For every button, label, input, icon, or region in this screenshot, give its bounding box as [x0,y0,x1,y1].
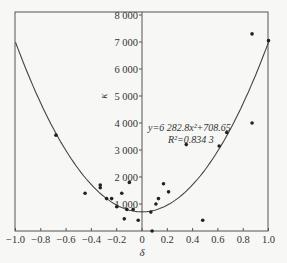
y-tick-label: 2 000 [114,172,138,183]
data-point [217,144,221,148]
x-tick-label: 0.8 [237,234,250,245]
data-point [128,181,132,185]
data-point [167,190,171,194]
data-point [115,205,119,209]
y-tick-label: 4 000 [114,118,138,129]
scatter-chart: −1.0−0.8−0.6−0.4−0.200.20.40.60.81.01 00… [0,0,287,263]
data-point [120,191,124,195]
fit-equation: y=6 282.8x²+708.65 [147,122,231,133]
data-point [250,32,254,36]
data-point [136,218,140,222]
data-point [105,197,109,201]
data-point [131,208,135,212]
y-tick-label: 5 000 [114,91,138,102]
x-tick-label: −0.6 [57,234,76,245]
x-axis-label: δ [139,246,145,258]
x-tick-label: −0.2 [107,234,126,245]
data-point [110,197,114,201]
data-point [157,197,161,201]
data-point [201,218,205,222]
data-point [122,217,126,221]
data-point [125,208,129,212]
y-tick-label: 8 000 [114,10,138,21]
data-point [250,121,254,125]
data-point [83,191,87,195]
data-point [149,210,153,214]
fit-r2: R²=0.834 3 [167,134,214,145]
data-point [162,182,166,186]
data-point [150,229,154,233]
x-tick-label: −1.0 [6,234,25,245]
x-tick-label: 0 [139,234,144,245]
data-point [54,133,58,137]
x-tick-label: 0.2 [161,234,174,245]
y-tick-label: 3 000 [114,145,138,156]
y-tick-label: 6 000 [114,64,138,75]
x-tick-label: −0.4 [82,234,102,245]
data-point [98,186,102,190]
x-tick-label: 0.4 [186,234,200,245]
x-tick-label: 0.6 [211,234,224,245]
y-axis-label: κ [97,93,109,99]
x-tick-label: 1.0 [262,234,275,245]
x-tick-label: −0.8 [31,234,50,245]
data-point [267,39,271,43]
data-point [154,202,158,206]
y-tick-label: 7 000 [114,37,138,48]
